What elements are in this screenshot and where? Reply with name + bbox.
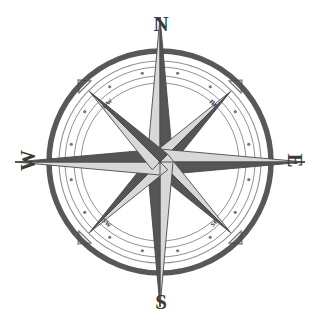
compass-rose-figure: N S W E nw ne sw se: [0, 0, 321, 332]
cardinal-label-north: N: [150, 14, 172, 35]
cardinal-label-west: W: [18, 150, 39, 172]
degree-dot: [108, 236, 111, 239]
degree-dot: [141, 249, 144, 252]
degree-dot: [176, 72, 179, 75]
degree-dot: [209, 85, 212, 88]
degree-dot: [70, 178, 73, 181]
degree-dot: [234, 110, 237, 113]
degree-dot: [141, 72, 144, 75]
compass-center-hub: [158, 160, 161, 163]
degree-dot: [83, 110, 86, 113]
degree-dot: [108, 85, 111, 88]
cardinal-label-south: S: [150, 292, 172, 313]
degree-dot: [247, 178, 250, 181]
degree-dot: [209, 236, 212, 239]
compass-rose-graphic: [0, 0, 321, 332]
degree-dot: [176, 249, 179, 252]
degree-dot: [70, 143, 73, 146]
star-point-light-face-S: [160, 162, 173, 307]
degree-dot: [234, 211, 237, 214]
degree-dot: [247, 143, 250, 146]
star-points-group: [15, 17, 305, 307]
cardinal-label-east: E: [284, 150, 305, 172]
degree-dot: [83, 211, 86, 214]
